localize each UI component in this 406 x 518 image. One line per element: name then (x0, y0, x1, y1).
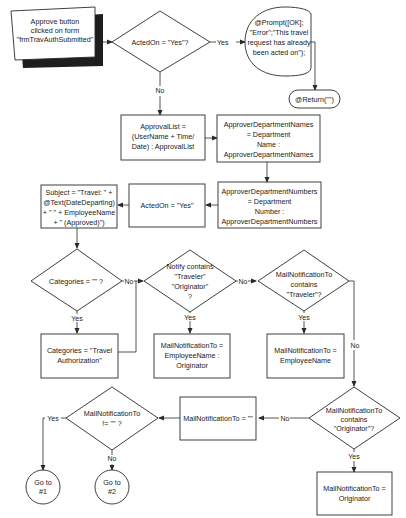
approval-list-node: ApprovalList = (UserName + Time/ Date) :… (121, 115, 205, 160)
dept-numbers-line-2: = Department (248, 197, 292, 206)
return-node-label: @Return("") (295, 95, 334, 104)
decision-traveler-line-1: MailNotificationTo (276, 270, 332, 279)
edge-label-traveler-no: No (351, 342, 360, 349)
subject-line-2: @Text(DateDeparting) (43, 198, 115, 207)
subject-line-4: + " (Approved)") (53, 218, 104, 227)
edge-label-categories-yes: Yes (71, 315, 83, 322)
goto-1-line-1: Go to (34, 478, 52, 487)
prompt-node-line-3: request has already (247, 38, 311, 47)
set-categories-line-2: Authorization" (57, 356, 102, 365)
goto-1-connector: Go to #1 (26, 470, 60, 504)
decision-traveler: MailNotificationTo contains "Traveler"? (258, 250, 349, 311)
decision-categories-label: Categories = "" ? (49, 277, 103, 286)
edge-label-originator-yes: Yes (348, 453, 360, 460)
goto-1-line-2: #1 (39, 487, 47, 496)
start-node-line-1: Approve button (31, 17, 80, 26)
set-acted-on-node: ActedOn = "Yes" (129, 184, 205, 227)
approval-list-line-3: Date) : ApprovalList (132, 142, 195, 151)
edge-label-acted-on-yes: Yes (217, 39, 229, 46)
mail-employee-originator-node: MailNotificationTo = EmployeeName : Orig… (154, 334, 230, 378)
decision-acted-on-label: ActedOn = "Yes"? (132, 38, 189, 47)
edge-label-notify-yes: Yes (184, 314, 196, 321)
edge-label-originator-no: No (281, 415, 290, 422)
mail-employee-originator-line-2: EmployeeName : (164, 351, 219, 360)
edge-label-notify-no: No (239, 278, 248, 285)
goto-2-line-1: Go to (103, 478, 121, 487)
decision-acted-on: ActedOn = "Yes"? (112, 11, 210, 72)
mail-originator-node: MailNotificationTo = Originator (317, 472, 392, 515)
mail-empty-node: MailNotificationTo = "" (180, 397, 256, 440)
decision-not-empty-line-1: MailNotificationTo (84, 409, 140, 418)
mail-employee-originator-line-3: Originator (176, 361, 208, 370)
set-categories-node: Categories = "Travel Authorization" (41, 334, 118, 378)
decision-traveler-line-3: "Traveler"? (286, 290, 321, 299)
mail-employee-originator-line-1: MailNotificationTo = (161, 341, 224, 350)
dept-numbers-line-1: ApproverDepartmentNumbers (222, 187, 318, 196)
dept-names-node: ApproverDepartmentNames = Department Nam… (217, 115, 320, 162)
subject-line-3: + " " + EmployeeName (43, 208, 116, 217)
decision-not-empty: MailNotificationTo != "" ? (66, 387, 158, 450)
start-node-line-3: "frmTravAuthSubmitted" (17, 35, 94, 44)
edge-label-acted-on-no: No (156, 87, 165, 94)
subject-node: Subject = "Travel: " + @Text(DateDeparti… (41, 185, 117, 228)
mail-employee-line-2: EmployeeName (280, 356, 331, 365)
dept-names-line-2: = Department (247, 130, 291, 139)
start-node: Approve button clicked on form "frmTravA… (11, 7, 103, 68)
decision-categories: Categories = "" ? (31, 249, 122, 311)
decision-originator-line-2: contains (341, 415, 368, 424)
dept-names-line-1: ApproverDepartmentNames (224, 120, 314, 129)
dept-names-line-3: Name : (257, 140, 280, 149)
decision-notify-line-3: "Originator" (172, 282, 209, 291)
decision-originator-line-1: MailNotificationTo (326, 406, 382, 415)
flowchart-canvas: Approve button clicked on form "frmTravA… (0, 0, 406, 518)
mail-empty-label: MailNotificationTo = "" (183, 414, 253, 423)
approval-list-line-1: ApprovalList = (140, 122, 186, 131)
prompt-node: @Prompt([OK]; "Error";"This travel reque… (245, 7, 311, 76)
edge-label-traveler-yes: Yes (298, 314, 310, 321)
decision-notify-line-4: ? (188, 292, 192, 301)
edge-label-categories-no: No (125, 278, 134, 285)
dept-names-line-4: ApproverDepartmentNames (224, 150, 314, 159)
prompt-node-line-1: @Prompt([OK]; (254, 18, 303, 27)
decision-originator: MailNotificationTo contains "Originator"… (309, 387, 400, 449)
goto-2-connector: Go to #2 (95, 470, 129, 504)
mail-originator-line-2: Originator (339, 494, 371, 503)
decision-not-empty-line-2: != "" ? (102, 419, 121, 428)
start-node-line-2: clicked on form (31, 26, 79, 35)
subject-line-1: Subject = "Travel: " + (45, 188, 112, 197)
mail-originator-line-1: MailNotificationTo = (323, 484, 386, 493)
goto-2-line-2: #2 (108, 487, 116, 496)
set-acted-on-label: ActedOn = "Yes" (141, 201, 194, 210)
dept-numbers-line-4: ApproverDepartmentNumbers (222, 217, 318, 226)
return-node: @Return("") (289, 90, 340, 108)
decision-traveler-line-2: contains (291, 280, 318, 289)
decision-notify-line-2: "Traveler" (174, 272, 206, 281)
decision-originator-line-3: "Originator"? (334, 424, 375, 433)
mail-employee-node: MailNotificationTo = EmployeeName (267, 334, 344, 378)
approval-list-line-2: (UserName + Time/ (132, 132, 195, 141)
prompt-node-line-4: been acted on"); (253, 48, 306, 57)
dept-numbers-node: ApproverDepartmentNumbers = Department N… (218, 182, 321, 228)
decision-notify: Notify contains "Traveler" "Originator" … (144, 250, 236, 312)
edge-label-not-empty-no: No (108, 455, 117, 462)
mail-employee-line-1: MailNotificationTo = (274, 346, 337, 355)
edge-label-not-empty-yes: Yes (47, 415, 59, 422)
decision-notify-line-1: Notify contains (166, 262, 214, 271)
dept-numbers-line-3: Number : (255, 207, 285, 216)
prompt-node-line-2: "Error";"This travel (250, 28, 309, 37)
set-categories-line-1: Categories = "Travel (47, 346, 113, 355)
